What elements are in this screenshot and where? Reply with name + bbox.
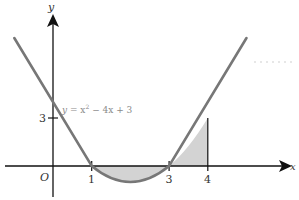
x-tick-label-1: 1: [88, 173, 95, 186]
y-tick-label-3: 3: [39, 112, 46, 125]
x-axis-label: x: [290, 161, 296, 172]
shaded-area-region: [92, 118, 208, 182]
x-tick-label-4: 4: [204, 173, 211, 186]
function-equation-label: y = x2 − 4x + 3: [61, 103, 133, 115]
x-tick-label-3: 3: [166, 173, 173, 186]
origin-label: O: [40, 171, 49, 184]
parabola-diagram: y x O 1 3 4 3 y = x2 − 4x + 3: [0, 0, 299, 200]
y-axis-label: y: [47, 1, 55, 14]
